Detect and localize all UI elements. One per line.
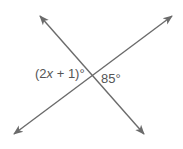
diagram-canvas (0, 0, 183, 149)
angle-left-suffix: + 1)° (53, 66, 85, 81)
angle-right-value: 85° (101, 71, 121, 86)
angle-left-prefix: (2 (35, 66, 47, 81)
angle-label-right: 85° (101, 72, 121, 85)
angle-label-left: (2x + 1)° (35, 67, 85, 80)
